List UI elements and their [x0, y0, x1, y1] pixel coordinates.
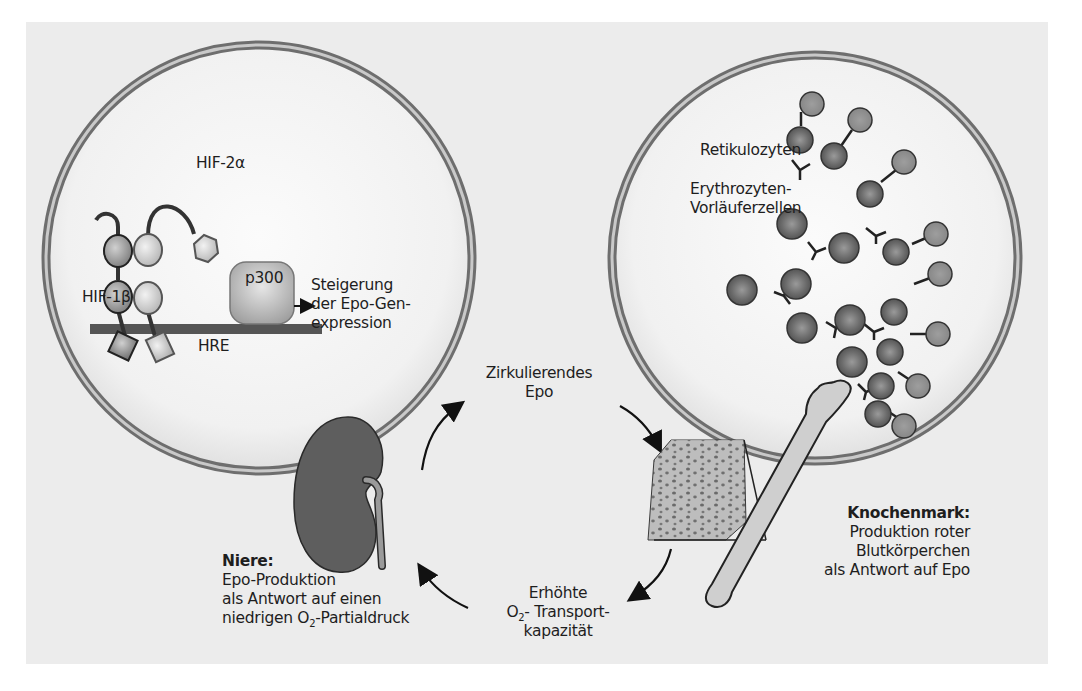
- circulating-epo-line-1: Zirkulierendes: [474, 364, 604, 383]
- expression-label: Steigerung der Epo-Gen- expression: [311, 276, 411, 333]
- capacity-line-3: kapazität: [488, 622, 628, 641]
- arrow-kidney-to-epo: [422, 406, 458, 470]
- arrow-epo-to-marrow: [620, 406, 658, 446]
- bone-marrow-title: Knochenmark:: [774, 504, 970, 523]
- kidney-line-3: niedrigen O2-Partialdruck: [222, 609, 409, 628]
- precursor-cells-line-2: Vorläuferzellen: [690, 199, 801, 218]
- circulating-epo-label: Zirkulierendes Epo: [474, 364, 604, 402]
- epo-regulation-figure: HIF-2α HIF-1β p300 HRE Steigerung der Ep…: [26, 22, 1048, 664]
- precursor-cells-label: Erythrozyten- Vorläuferzellen: [690, 180, 801, 218]
- kidney-caption: Niere: Epo-Produktion als Antwort auf ei…: [222, 552, 409, 628]
- expression-line-2: der Epo-Gen-: [311, 295, 411, 314]
- circulating-epo-line-2: Epo: [474, 383, 604, 402]
- hif-1beta-label: HIF-1β: [82, 288, 131, 307]
- capacity-line-1: Erhöhte: [488, 584, 628, 603]
- kidney-line-1: Epo-Produktion: [222, 571, 409, 590]
- kidney-line-2: als Antwort auf einen: [222, 590, 409, 609]
- bone-marrow-line-2: Blutkörperchen: [774, 542, 970, 561]
- reticulocytes-label: Retikulozyten: [700, 141, 801, 160]
- hre-label: HRE: [198, 337, 229, 356]
- hif-2alpha-label: HIF-2α: [196, 154, 245, 173]
- bone-marrow-line-3: als Antwort auf Epo: [774, 561, 970, 580]
- expression-line-1: Steigerung: [311, 276, 411, 295]
- expression-line-3: expression: [311, 314, 411, 333]
- bone-marrow-caption: Knochenmark: Produktion roter Blutkörper…: [774, 504, 970, 580]
- arrow-capacity-to-kidney: [422, 570, 468, 608]
- arrow-marrow-to-capacity: [634, 549, 671, 597]
- precursor-cells-line-1: Erythrozyten-: [690, 180, 801, 199]
- kidney-title: Niere:: [222, 552, 409, 571]
- p300-label: p300: [245, 269, 283, 288]
- capacity-line-2: O2- Transport-: [488, 603, 628, 622]
- o2-transport-capacity-label: Erhöhte O2- Transport- kapazität: [488, 584, 628, 641]
- bone-marrow-line-1: Produktion roter: [774, 523, 970, 542]
